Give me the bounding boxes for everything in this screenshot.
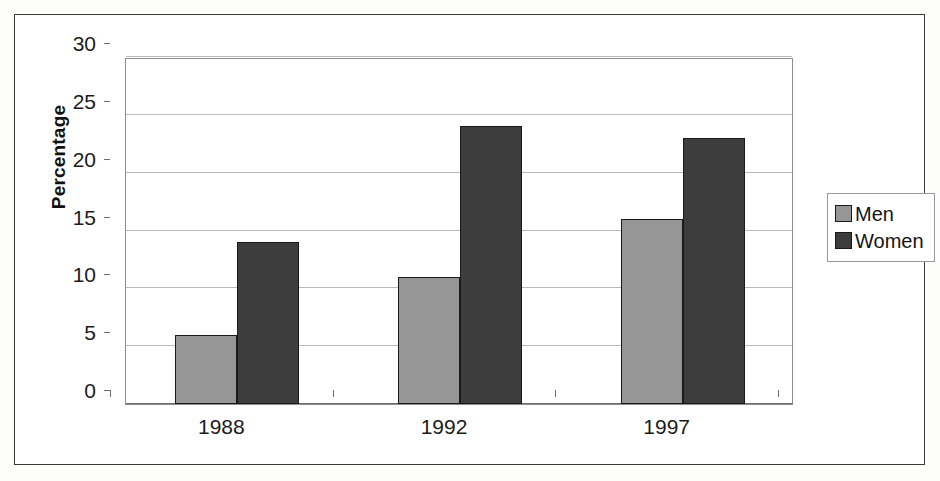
y-tick-label-20: 20 xyxy=(15,149,96,170)
y-tick-label-30: 30 xyxy=(15,33,96,54)
plot-area xyxy=(125,58,793,405)
chart-legend: Men Women xyxy=(827,193,935,262)
y-tick-label-5: 5 xyxy=(15,322,96,343)
x-tick-mark-0 xyxy=(110,390,111,397)
x-category-label-1988: 1988 xyxy=(110,416,333,437)
x-tick-mark-3 xyxy=(778,390,779,397)
legend-item-men: Men xyxy=(835,200,924,227)
y-tick-mark-5 xyxy=(104,332,110,333)
bar-men-1997 xyxy=(621,219,683,404)
gridline-30 xyxy=(126,56,792,57)
figure-frame: Percentage 051015202530 198819921997 Men… xyxy=(14,14,925,465)
x-tick-mark-1 xyxy=(333,390,334,397)
y-tick-label-0: 0 xyxy=(15,380,96,401)
legend-item-women: Women xyxy=(835,227,924,254)
y-tick-label-15: 15 xyxy=(15,207,96,228)
y-tick-label-25: 25 xyxy=(15,91,96,112)
legend-label-men: Men xyxy=(855,204,894,224)
x-category-label-1992: 1992 xyxy=(333,416,556,437)
legend-swatch-women-icon xyxy=(835,232,852,249)
x-tick-mark-2 xyxy=(555,390,556,397)
bar-men-1988 xyxy=(175,335,237,404)
y-tick-mark-25 xyxy=(104,101,110,102)
x-category-label-1997: 1997 xyxy=(555,416,778,437)
gridline-25 xyxy=(126,114,792,115)
bar-women-1997 xyxy=(683,138,745,404)
y-tick-mark-15 xyxy=(104,217,110,218)
y-tick-mark-10 xyxy=(104,274,110,275)
bar-women-1988 xyxy=(237,242,299,404)
y-tick-mark-30 xyxy=(104,43,110,44)
bar-men-1992 xyxy=(398,277,460,404)
y-tick-label-10: 10 xyxy=(15,264,96,285)
bar-women-1992 xyxy=(460,126,522,404)
legend-swatch-men-icon xyxy=(835,205,852,222)
y-tick-mark-20 xyxy=(104,159,110,160)
legend-label-women: Women xyxy=(855,231,924,251)
